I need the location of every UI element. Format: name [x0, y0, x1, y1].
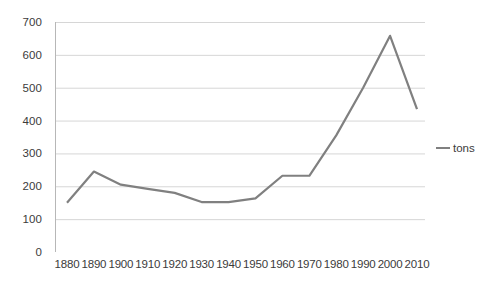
- y-tick-label-400: 400: [23, 115, 43, 127]
- x-tick-label-2000: 2000: [378, 258, 403, 270]
- x-tick-label-1980: 1980: [324, 258, 349, 270]
- y-tick-label-700: 700: [23, 16, 43, 28]
- x-tick-label-1950: 1950: [243, 258, 268, 270]
- x-tick-label-2010: 2010: [405, 258, 430, 270]
- plot-area: [55, 22, 425, 252]
- y-tick-label-200: 200: [23, 180, 43, 192]
- x-tick-label-1990: 1990: [351, 258, 376, 270]
- x-axis-tick-labels: 1880189019001910192019301940195019601970…: [55, 258, 425, 282]
- x-tick-label-1900: 1900: [108, 258, 133, 270]
- plot-svg: [55, 22, 425, 252]
- y-tick-label-600: 600: [23, 49, 43, 61]
- line-chart: 7006005004003002001000 18801890190019101…: [0, 0, 497, 286]
- legend-line-icon: [436, 147, 450, 149]
- legend: tons: [436, 142, 475, 154]
- x-tick-label-1920: 1920: [162, 258, 187, 270]
- x-tick-label-1970: 1970: [297, 258, 322, 270]
- x-tick-label-1930: 1930: [189, 258, 214, 270]
- x-tick-label-1890: 1890: [82, 258, 107, 270]
- series-line-tons: [67, 36, 417, 203]
- x-tick-label-1880: 1880: [55, 258, 80, 270]
- gridlines: [55, 23, 425, 253]
- y-tick-label-100: 100: [23, 213, 43, 225]
- y-tick-label-500: 500: [23, 82, 43, 94]
- y-tick-label-0: 0: [36, 246, 43, 258]
- x-tick-label-1960: 1960: [270, 258, 295, 270]
- y-axis-tick-labels: 7006005004003002001000: [0, 0, 48, 286]
- x-tick-label-1910: 1910: [135, 258, 160, 270]
- legend-label-tons: tons: [453, 142, 475, 154]
- x-tick-label-1940: 1940: [216, 258, 241, 270]
- y-tick-label-300: 300: [23, 147, 43, 159]
